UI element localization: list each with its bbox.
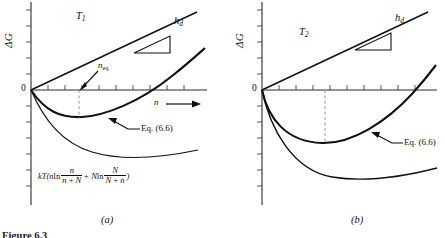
- panel-a-temperature-sub: 1: [82, 14, 86, 23]
- formula-ln-1: ln: [54, 171, 61, 181]
- panel-a-total-curve: [31, 48, 205, 117]
- panel-a-x-axis-arrow: [166, 100, 201, 107]
- formula-fraction-2-denominator: N + n: [104, 175, 125, 185]
- panel-b-temperature-sub: 2: [305, 30, 309, 39]
- panel-a-entropy-curve: [31, 90, 198, 158]
- formula-ln-2: ln: [97, 171, 104, 181]
- panel-b-eq-arrow: [371, 132, 403, 143]
- panel-b-origin-label: 0: [252, 84, 257, 94]
- panel-b-y-axis-label: ΔG: [234, 33, 245, 48]
- panel-a-label: (a): [101, 215, 113, 226]
- panel-b-slope-triangle: [355, 33, 391, 50]
- panel-a-entropy-formula: kT(nln n n + N + Nln N N + n ): [38, 166, 129, 185]
- panel-b-slope-label: hd: [395, 13, 404, 25]
- formula-suffix: ): [127, 171, 130, 181]
- figure-canvas: [0, 0, 445, 238]
- panel-b-temperature-label: T2: [299, 27, 309, 39]
- panel-a-temperature-label: T1: [76, 11, 86, 23]
- panel-a-neq-arrow: [79, 71, 98, 91]
- panel-a-x-axis-label: n: [154, 98, 159, 107]
- panel-b-x-ticks: [279, 85, 415, 90]
- formula-fraction-1: n n + N: [61, 166, 82, 185]
- panel-b-y-ticks: [257, 10, 262, 186]
- panel-a-enthalpy-line: [31, 12, 197, 90]
- panel-a-origin-label: 0: [21, 84, 26, 94]
- panel-a-slope-label: hd: [174, 16, 183, 28]
- panel-a-curve-label: Eq. (6.6): [141, 124, 173, 133]
- panel-a-x-ticks: [48, 85, 184, 90]
- panel-b-total-curve: [262, 65, 436, 143]
- panel-b-label: (b): [351, 215, 363, 226]
- panel-a-neq-sub: eq: [103, 64, 109, 71]
- figure-caption: Figure 6.3: [2, 230, 47, 238]
- panel-a-eq-arrow: [108, 118, 140, 129]
- panel-a-y-axis-label: ΔG: [3, 33, 14, 48]
- formula-fraction-2: N N + n: [104, 166, 125, 185]
- panel-b-graphics: [257, 2, 437, 205]
- formula-plus: + N: [83, 171, 97, 181]
- panel-a-slope-sub: d: [179, 19, 183, 28]
- formula-fraction-1-denominator: n + N: [61, 175, 82, 185]
- formula-prefix: kT(n: [38, 171, 54, 181]
- panel-b-slope-sub: d: [400, 16, 404, 25]
- panel-b-curve-label: Eq. (6.6): [404, 138, 436, 147]
- panel-b-entropy-curve: [262, 90, 437, 179]
- panel-a-y-ticks: [26, 10, 31, 186]
- formula-fraction-1-numerator: n: [61, 166, 82, 175]
- figure-6-3: ΔG 0 T1 hd neq Eq. (6.6) n kT(nln n n + …: [0, 0, 445, 238]
- formula-fraction-2-numerator: N: [104, 166, 125, 175]
- panel-a-neq-label: neq: [98, 61, 109, 71]
